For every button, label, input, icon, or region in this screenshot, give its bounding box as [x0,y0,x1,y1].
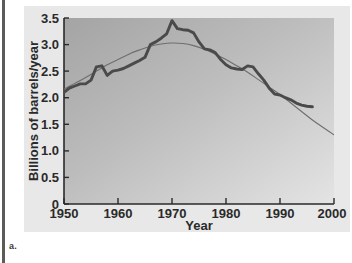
x-tick-label: 1950 [50,206,79,221]
y-tick-label: 0.5 [41,170,59,185]
x-tick-label: 2000 [318,206,347,221]
y-tick-label: 2.5 [41,64,59,79]
x-tick-label: 1970 [158,206,187,221]
page-edge-rule [2,0,5,263]
y-tick-label: 1.0 [41,143,59,158]
y-axis-title: Billions of barrels/year [26,41,41,181]
plot-background [64,18,334,204]
x-axis-title: Year [185,218,212,232]
y-tick-label: 1.5 [41,117,59,132]
y-axis-tick-labels: 0 0.5 1.0 1.5 2.0 2.5 3.0 3.5 [41,11,59,212]
x-tick-label: 1960 [104,206,133,221]
figure-caption: a. [9,241,17,251]
y-tick-label: 2.0 [41,90,59,105]
oil-discovery-line-chart: 0 0.5 1.0 1.5 2.0 2.5 3.0 3.5 1950 1960 … [24,6,350,232]
y-tick-label: 3.5 [41,11,59,26]
y-tick-label: 3.0 [41,37,59,52]
figure-root: 0 0.5 1.0 1.5 2.0 2.5 3.0 3.5 1950 1960 … [0,0,352,263]
x-tick-label: 1980 [212,206,241,221]
x-tick-label: 1990 [266,206,295,221]
